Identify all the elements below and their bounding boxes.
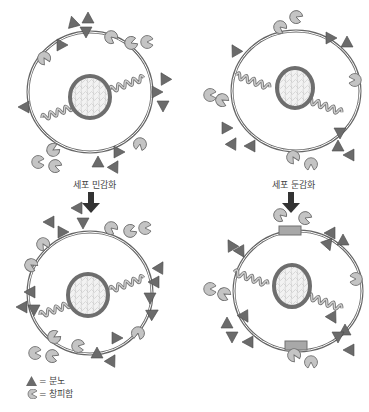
cell-bottom-right bbox=[204, 206, 363, 368]
coil-icon bbox=[307, 97, 343, 115]
coil-icon bbox=[109, 75, 145, 93]
coil-icon bbox=[307, 293, 343, 311]
legend: = 분노 = 창피함 bbox=[26, 374, 73, 400]
pacman-icon bbox=[26, 389, 37, 399]
cell-top-left bbox=[18, 12, 172, 174]
legend-label: = 분노 bbox=[39, 374, 65, 387]
diagram-canvas bbox=[0, 0, 369, 412]
coil-icon bbox=[233, 269, 269, 287]
legend-label: = 창피함 bbox=[39, 387, 73, 400]
arrow-label-sensitization: 세포 민감화 bbox=[73, 178, 116, 191]
arrow-down-icon bbox=[82, 192, 100, 213]
legend-item-shame: = 창피함 bbox=[26, 387, 73, 400]
arrow-label-desensitization: 세포 둔감화 bbox=[272, 178, 315, 191]
coil-icon bbox=[109, 275, 145, 293]
cell-bottom-left bbox=[16, 202, 168, 367]
triangle-icon bbox=[26, 376, 37, 386]
legend-item-anger: = 분노 bbox=[26, 374, 73, 387]
arrow-down-icon bbox=[282, 192, 300, 213]
cell-top-right bbox=[204, 9, 362, 170]
coil-icon bbox=[235, 72, 271, 90]
